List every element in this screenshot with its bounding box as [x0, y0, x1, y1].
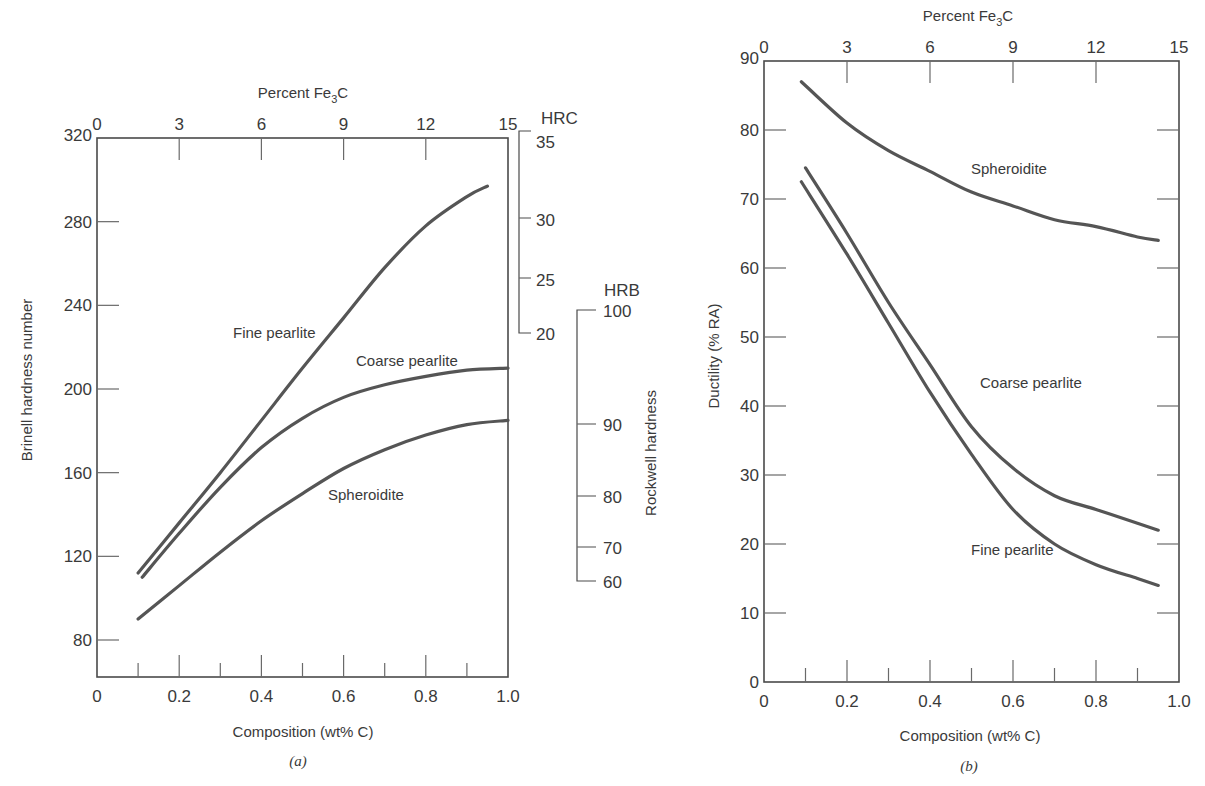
- y-tick-label: 120: [64, 547, 92, 566]
- x-axis-title-b: Composition (wt% C): [900, 727, 1041, 744]
- top-tick-label: 6: [257, 115, 266, 134]
- y-tick-label: 320: [64, 126, 92, 145]
- y-tick-label: 40: [740, 397, 759, 416]
- y-tick-label: 80: [740, 121, 759, 140]
- svg-text:30: 30: [536, 211, 555, 230]
- top-tick-label: 12: [1087, 38, 1106, 57]
- x-tick-label: 1.0: [1167, 692, 1191, 711]
- curve-spheroidite: [138, 420, 508, 619]
- curve-coarse-pearlite: [806, 168, 1159, 530]
- curve-label-spheroidite-b: Spheroidite: [971, 160, 1047, 177]
- svg-text:20: 20: [536, 325, 555, 344]
- y-tick-label: 240: [64, 296, 92, 315]
- curve-fine-pearlite: [138, 186, 487, 573]
- curve-label-coarse-pearlite-b: Coarse pearlite: [980, 374, 1082, 391]
- curve-label-coarse-pearlite-a: Coarse pearlite: [356, 352, 458, 369]
- svg-text:70: 70: [603, 539, 622, 558]
- top-tick-label: 9: [339, 115, 348, 134]
- chart-b: 0102030405060708090 00.20.40.60.81.0 036…: [705, 7, 1191, 775]
- y-tick-label: 160: [64, 464, 92, 483]
- x-tick-label: 0.2: [835, 692, 859, 711]
- x-tick-label: 0: [92, 687, 101, 706]
- x-tick-label: 0.6: [1001, 692, 1025, 711]
- svg-text:90: 90: [603, 416, 622, 435]
- top-tick-label: 6: [925, 38, 934, 57]
- panel-label-a: (a): [289, 753, 307, 770]
- x-tick-label: 0.8: [1084, 692, 1108, 711]
- x-tick-label: 0.4: [918, 692, 942, 711]
- svg-text:80: 80: [603, 488, 622, 507]
- y-axis-title-a: Brinell hardness number: [18, 299, 35, 462]
- curve-label-fine-pearlite-b: Fine pearlite: [971, 541, 1054, 558]
- plot-frame-a: [97, 138, 508, 677]
- top-tick-label: 12: [416, 115, 435, 134]
- hrc-axis: HRC 35 30 25 20: [519, 109, 578, 344]
- svg-text:100: 100: [603, 302, 631, 321]
- top-tick-label: 15: [499, 115, 518, 134]
- svg-text:35: 35: [536, 133, 555, 152]
- y-tick-label: 0: [750, 673, 759, 692]
- y-tick-label: 10: [740, 604, 759, 623]
- y-tick-label: 50: [740, 328, 759, 347]
- curve-label-fine-pearlite-a: Fine pearlite: [233, 324, 316, 341]
- top-tick-label: 3: [174, 115, 183, 134]
- y-tick-label: 60: [740, 259, 759, 278]
- curves-a: [138, 186, 508, 619]
- x-tick-label: 0.6: [332, 687, 356, 706]
- y-ticks-b: 0102030405060708090: [740, 49, 1179, 692]
- figure: 80120160200240280320 00.20.40.60.81.0 03…: [0, 0, 1205, 786]
- svg-text:60: 60: [603, 573, 622, 592]
- y-tick-label: 80: [73, 631, 92, 650]
- panel-label-b: (b): [960, 758, 978, 775]
- curve-label-spheroidite-a: Spheroidite: [328, 486, 404, 503]
- rockwell-axis-title: Rockwell hardness: [642, 390, 659, 516]
- x-axis-title-a: Composition (wt% C): [233, 723, 374, 740]
- top-tick-label: 15: [1170, 38, 1189, 57]
- y-tick-label: 20: [740, 535, 759, 554]
- top-tick-label: 9: [1008, 38, 1017, 57]
- y-tick-label: 70: [740, 190, 759, 209]
- x-tick-label: 0.8: [414, 687, 438, 706]
- top-tick-label: 0: [92, 115, 101, 134]
- x-ticks-a: 00.20.40.60.81.0: [92, 655, 520, 706]
- y-tick-label: 280: [64, 213, 92, 232]
- y-tick-label: 200: [64, 380, 92, 399]
- y-tick-label: 90: [740, 49, 759, 68]
- top-axis-title-b: Percent Fe3C: [923, 7, 1014, 28]
- svg-text:25: 25: [536, 271, 555, 290]
- chart-a: 80120160200240280320 00.20.40.60.81.0 03…: [18, 84, 659, 770]
- x-tick-label: 0.4: [250, 687, 274, 706]
- hrb-label: HRB: [604, 281, 640, 300]
- y-ticks-a: 80120160200240280320: [64, 126, 119, 650]
- y-axis-title-b: Ductility (% RA): [705, 303, 722, 408]
- top-tick-label: 0: [759, 38, 768, 57]
- x-tick-label: 0.2: [167, 687, 191, 706]
- curve-coarse-pearlite: [142, 368, 508, 577]
- y-tick-label: 30: [740, 466, 759, 485]
- hrc-label: HRC: [541, 109, 578, 128]
- top-axis-title-a: Percent Fe3C: [258, 84, 349, 105]
- x-tick-label: 0: [759, 692, 768, 711]
- curves-b: [801, 82, 1158, 586]
- plot-frame-b: [764, 61, 1179, 682]
- x-ticks-b: 00.20.40.60.81.0: [759, 660, 1191, 711]
- top-tick-label: 3: [842, 38, 851, 57]
- hrb-axis: HRB 100 90 80 70 60 Rockwell hardness: [577, 281, 659, 592]
- x-tick-label: 1.0: [496, 687, 520, 706]
